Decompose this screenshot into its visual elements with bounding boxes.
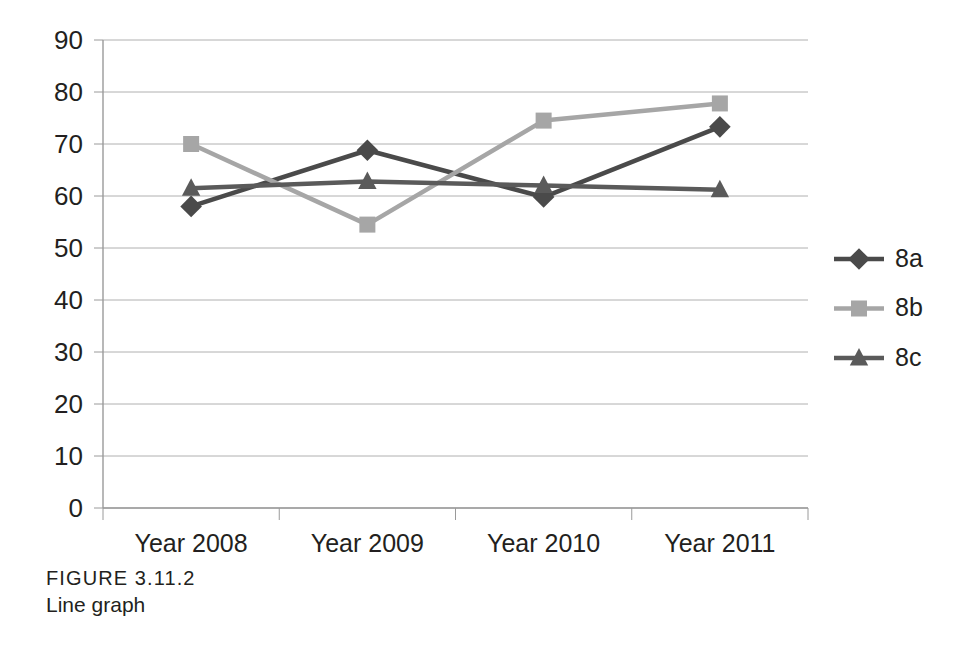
x-tick-label: Year 2011	[664, 529, 775, 557]
y-tick-marks-group	[94, 40, 103, 508]
legend-label-8b: 8b	[895, 293, 923, 321]
y-tick-label: 80	[54, 77, 83, 107]
x-tick-label: Year 2009	[311, 529, 424, 557]
y-tick-label: 40	[54, 285, 83, 315]
data-point-8b-year-2008	[183, 136, 199, 152]
x-axis-tick-labels: Year 2008Year 2009Year 2010Year 2011	[135, 529, 776, 557]
series-line-8b	[191, 103, 720, 224]
legend-label-8a: 8a	[895, 244, 923, 272]
data-point-8a-year-2009	[357, 139, 379, 161]
y-tick-label: 20	[54, 389, 83, 419]
legend-item-8a[interactable]: 8a	[834, 244, 923, 272]
line-chart: 9080706050403020100 Year 2008Year 2009Ye…	[0, 0, 973, 600]
y-tick-label: 0	[69, 493, 83, 523]
legend-marker-square-icon	[851, 301, 867, 317]
series-line-8a	[191, 127, 720, 207]
figure-title: Line graph	[46, 591, 546, 619]
figure-caption: FIGURE 3.11.2 Line graph	[46, 565, 546, 619]
y-tick-label: 30	[54, 337, 83, 367]
gridlines-group	[103, 40, 808, 508]
data-point-8b-year-2009	[359, 217, 375, 233]
figure-container: 9080706050403020100 Year 2008Year 2009Ye…	[0, 0, 973, 670]
legend-item-8b[interactable]: 8b	[834, 293, 923, 321]
y-tick-label: 60	[54, 181, 83, 211]
data-point-8a-year-2008	[180, 196, 202, 218]
x-tick-label: Year 2008	[135, 529, 248, 557]
x-tick-marks-group	[103, 508, 808, 520]
y-axis-tick-labels: 9080706050403020100	[54, 25, 83, 523]
y-tick-label: 90	[54, 25, 83, 55]
y-tick-label: 70	[54, 129, 83, 159]
data-point-8b-year-2011	[712, 95, 728, 111]
data-point-8b-year-2010	[536, 113, 552, 129]
legend-marker-diamond-icon	[848, 248, 870, 270]
data-point-8a-year-2011	[709, 116, 731, 138]
y-tick-label: 50	[54, 233, 83, 263]
series-lines-group	[191, 103, 720, 224]
y-tick-label: 10	[54, 441, 83, 471]
legend-label-8c: 8c	[895, 343, 921, 371]
legend-item-8c[interactable]: 8c	[834, 343, 921, 371]
chart-legend: 8a8b8c	[834, 244, 923, 371]
x-tick-label: Year 2010	[487, 529, 600, 557]
figure-number: FIGURE 3.11.2	[46, 565, 546, 591]
series-markers-group	[180, 95, 730, 232]
